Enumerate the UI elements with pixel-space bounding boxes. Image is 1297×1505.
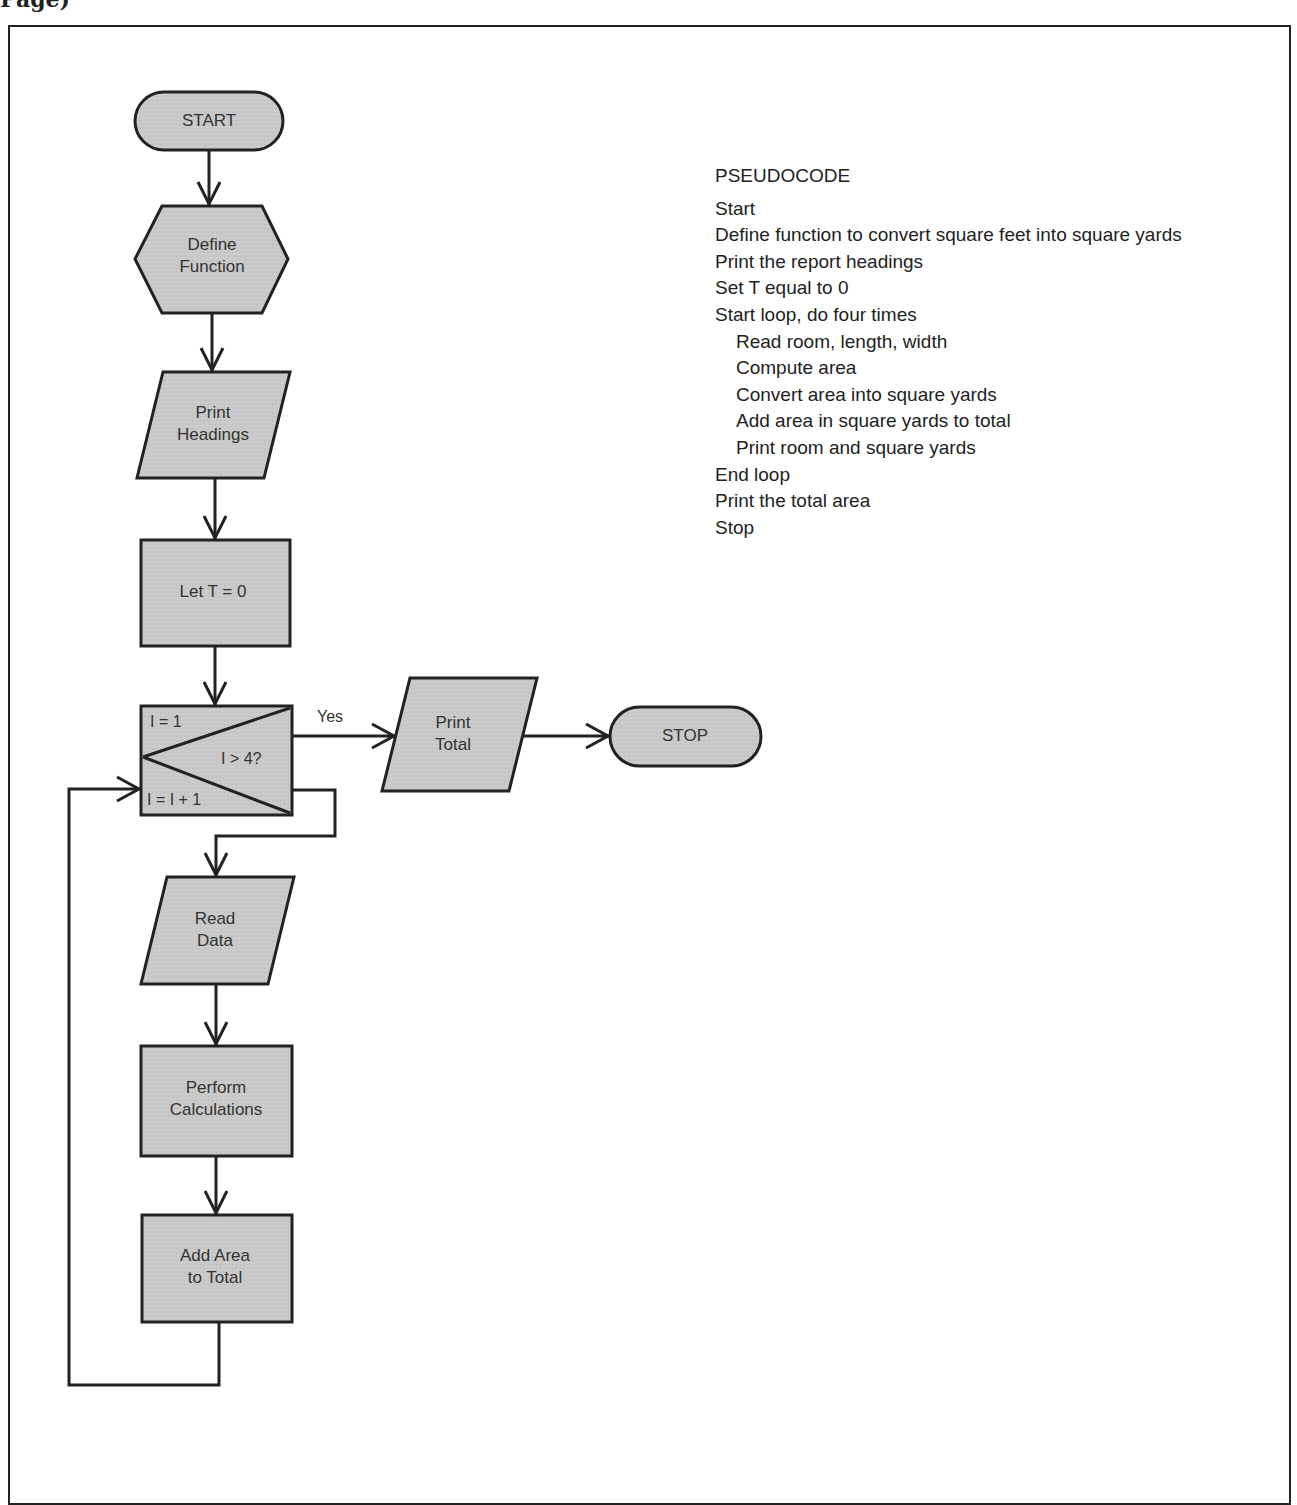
yes-edge-label: Yes xyxy=(317,708,343,726)
print-total-label: Print Total xyxy=(435,712,471,756)
start-label: START xyxy=(182,110,236,132)
define-function-label-line2: Function xyxy=(179,256,244,278)
add-area-label-line2: to Total xyxy=(180,1267,250,1289)
perform-calculations-label: Perform Calculations xyxy=(170,1077,263,1121)
pseudocode-line: Print the total area xyxy=(715,488,1182,515)
add-area-label: Add Area to Total xyxy=(180,1245,250,1289)
pseudocode-line: Define function to convert square feet i… xyxy=(715,222,1182,249)
define-function-label-line1: Define xyxy=(179,234,244,256)
pseudocode-block: PSEUDOCODE Start Define function to conv… xyxy=(715,163,1182,541)
print-total-label-line1: Print xyxy=(435,712,471,734)
pseudocode-line: Start loop, do four times xyxy=(715,302,1182,329)
loop-init-label: I = 1 xyxy=(150,713,182,731)
pseudocode-line: Read room, length, width xyxy=(715,329,1182,356)
perform-calculations-label-line1: Perform xyxy=(170,1077,263,1099)
stop-label: STOP xyxy=(662,725,708,747)
read-data-label-line2: Data xyxy=(195,930,236,952)
add-area-label-line1: Add Area xyxy=(180,1245,250,1267)
pseudocode-line: Compute area xyxy=(715,355,1182,382)
pseudocode-title: PSEUDOCODE xyxy=(715,163,1182,190)
loop-test-label: I > 4? xyxy=(221,750,261,768)
loop-increment-label: I = I + 1 xyxy=(147,791,201,809)
perform-calculations-label-line2: Calculations xyxy=(170,1099,263,1121)
pseudocode-line: Stop xyxy=(715,515,1182,542)
pseudocode-line: Set T equal to 0 xyxy=(715,275,1182,302)
print-headings-label-line1: Print xyxy=(177,402,249,424)
pseudocode-line: Start xyxy=(715,196,1182,223)
pseudocode-line: Convert area into square yards xyxy=(715,382,1182,409)
read-data-label-line1: Read xyxy=(195,908,236,930)
print-headings-label: Print Headings xyxy=(177,402,249,446)
print-headings-label-line2: Headings xyxy=(177,424,249,446)
let-t-label: Let T = 0 xyxy=(180,581,247,603)
pseudocode-line: End loop xyxy=(715,462,1182,489)
define-function-label: Define Function xyxy=(179,234,244,278)
read-data-label: Read Data xyxy=(195,908,236,952)
pseudocode-line: Add area in square yards to total xyxy=(715,408,1182,435)
pseudocode-line: Print room and square yards xyxy=(715,435,1182,462)
pseudocode-line: Print the report headings xyxy=(715,249,1182,276)
print-total-label-line2: Total xyxy=(435,734,471,756)
